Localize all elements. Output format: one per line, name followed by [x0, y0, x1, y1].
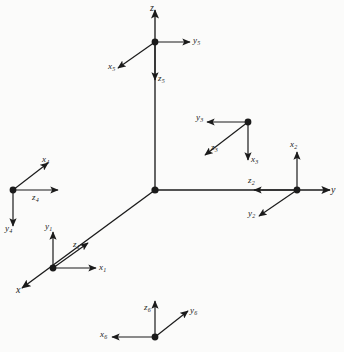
frame-1-z-arrow [53, 243, 88, 268]
global-origin [151, 186, 158, 193]
global-axis-x [22, 190, 155, 288]
diagram-canvas: zyxx1y1z1x2y2z2x3y3z3x4y4z4x5y5z5x6y6z6 [0, 0, 344, 352]
global-axes-group [22, 10, 330, 288]
frame-4-node [10, 187, 17, 194]
frame-1-z-label: z1 [73, 240, 80, 249]
frame-5-y-label: y5 [193, 36, 200, 45]
frame-2-z-label: z2 [248, 176, 255, 185]
frame-2-y-arrow [259, 190, 297, 216]
global-axis-label-y: y [331, 185, 335, 195]
frame-3-x-label: x3 [251, 155, 258, 164]
frame-3-z-label: z3 [211, 143, 218, 152]
frame-2-y-label: y2 [248, 209, 255, 218]
frame-3-y-label: y3 [196, 113, 203, 122]
frame-5-x-label: x5 [108, 62, 115, 71]
frame-1-x-label: x1 [99, 263, 106, 272]
frame-4-x-label: x4 [42, 155, 49, 164]
frame-1-y-label: y1 [45, 222, 52, 231]
frame-5-x-arrow [118, 42, 155, 68]
frame-6-x-label: x6 [100, 330, 107, 339]
frame-2-node [294, 187, 301, 194]
frame-4-z-label: z4 [32, 193, 39, 202]
frame-4-x-arrow [13, 163, 48, 190]
global-axis-label-z: z [150, 3, 154, 13]
frame-5-node [152, 39, 159, 46]
diagram-svg [0, 0, 344, 352]
frame-6-y-arrow [155, 311, 188, 337]
global-axis-label-x: x [16, 285, 20, 295]
frame-6-y-label: y6 [190, 306, 197, 315]
frame-1-node [50, 265, 57, 272]
frame-2-x-label: x2 [290, 140, 297, 149]
frame-6-node [152, 334, 159, 341]
frame-5-z-label: z5 [158, 74, 165, 83]
frame-4-y-label: y4 [5, 224, 12, 233]
frame-3-node [245, 119, 252, 126]
frame-6-z-label: z6 [144, 303, 151, 312]
